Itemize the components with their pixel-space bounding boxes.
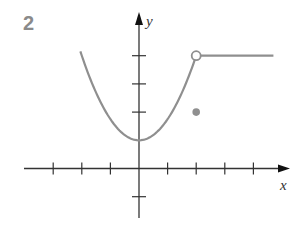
y-axis-label: y <box>144 13 153 29</box>
axes <box>24 12 290 218</box>
open-circle-point <box>192 51 201 60</box>
x-axis-arrow-icon <box>278 165 290 173</box>
axis-ticks <box>53 56 253 197</box>
function-curves <box>80 51 273 140</box>
function-graph: x y <box>0 0 299 231</box>
x-axis-label: x <box>279 177 287 193</box>
function-points <box>192 51 201 116</box>
y-axis-arrow-icon <box>135 12 143 25</box>
filled-point <box>192 108 200 116</box>
parabola-curve <box>80 51 196 140</box>
